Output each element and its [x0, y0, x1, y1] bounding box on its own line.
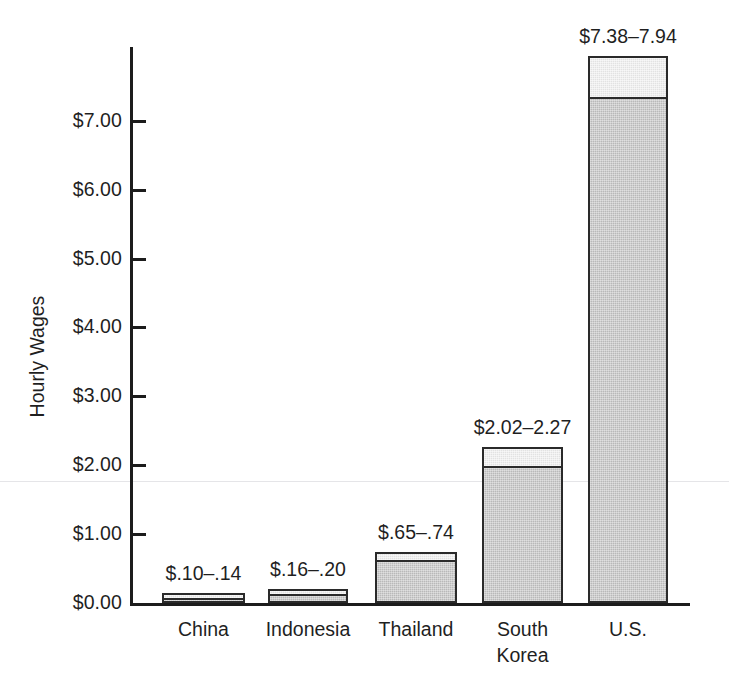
y-axis-tick-label: $5.00 [30, 247, 122, 269]
bar-range-cap [268, 589, 348, 596]
y-axis-tick-label-text: $3.00 [36, 384, 122, 407]
y-axis-tick-mark [133, 533, 146, 536]
bar-value-label: $7.38–7.94 [528, 25, 728, 48]
bar [268, 592, 348, 603]
bar [588, 95, 668, 603]
y-axis-tick-label: $0.00 [30, 591, 122, 613]
y-axis-tick-label: $3.00 [30, 384, 122, 406]
y-axis-tick-label-text: $6.00 [36, 178, 122, 201]
y-axis-tick-mark [133, 258, 146, 261]
y-axis-tick-label: $1.00 [30, 522, 122, 544]
y-axis-tick-label-text: $4.00 [36, 315, 122, 338]
bar-range-cap [375, 552, 457, 562]
bar [482, 464, 563, 603]
bar [162, 596, 245, 603]
y-axis-tick-mark [133, 189, 146, 192]
y-axis-tick-label-text: $7.00 [36, 109, 122, 132]
y-axis-tick-mark [133, 120, 146, 123]
x-axis-category-label: U.S. [528, 616, 728, 642]
y-axis-tick-label-text: $2.00 [36, 453, 122, 476]
y-axis-tick-mark [133, 464, 146, 467]
y-axis-tick-label: $4.00 [30, 315, 122, 337]
y-axis-tick-label: $7.00 [30, 109, 122, 131]
bar-chart-figure: Hourly Wages $7.00$6.00$5.00$4.00$3.00$2… [0, 0, 729, 692]
bar-range-cap [162, 593, 245, 600]
bar-range-cap [482, 447, 563, 468]
y-axis-line [130, 47, 133, 606]
y-axis-tick-mark [133, 395, 146, 398]
y-axis-tick-label: $6.00 [30, 178, 122, 200]
y-axis-tick-label: $2.00 [30, 453, 122, 475]
x-axis-line [130, 603, 690, 606]
bar-range-cap [588, 56, 668, 99]
y-axis-tick-label-text: $5.00 [36, 247, 122, 270]
y-axis-tick-label-text: $0.00 [36, 591, 122, 614]
y-axis-title: Hourly Wages [26, 257, 49, 457]
y-axis-tick-mark [133, 326, 146, 329]
y-axis-tick-label-text: $1.00 [36, 522, 122, 545]
bar [375, 558, 457, 603]
